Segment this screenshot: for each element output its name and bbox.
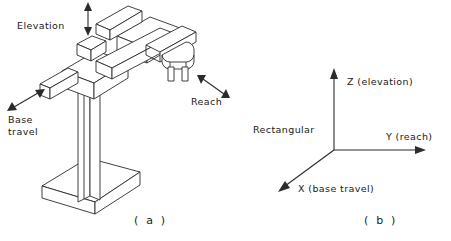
base-travel-label-line1: Base [8,114,33,126]
x-axis-label: X (base travel) [298,183,374,195]
y-axis-arrowhead [415,146,426,154]
base-travel-arrow [7,89,45,111]
base-travel-label-line2: travel [8,126,38,138]
coordinate-system-label: Rectangular [253,124,315,136]
elevation-label: Elevation [17,20,65,32]
panel-b-caption: ( b ) [364,214,398,227]
figure-root: Elevation Reach Base travel ( a ) Rectan… [0,0,451,241]
z-axis-arrowhead [330,68,338,79]
elevation-arrow [84,2,92,36]
reach-arrow [197,75,230,98]
y-axis-label: Y (reach) [386,131,432,143]
panel-a-caption: ( a ) [134,214,167,227]
robot-left-arm [40,68,78,99]
reach-label: Reach [191,96,222,108]
x-axis-arrowhead [278,181,290,192]
x-axis-line [285,150,334,186]
panel-a-robot-drawing [0,0,451,241]
z-axis-label: Z (elevation) [347,76,413,88]
